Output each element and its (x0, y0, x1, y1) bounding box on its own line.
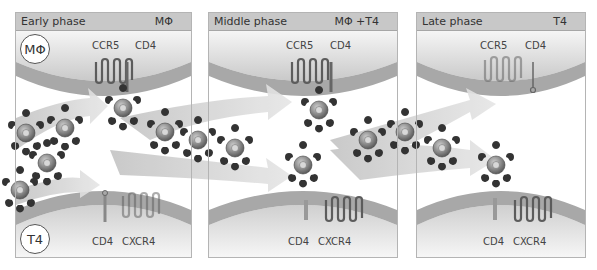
cd4-label: CD4 (525, 40, 546, 51)
phase-title: Middle phase (214, 13, 287, 30)
phase-title: Early phase (21, 13, 85, 30)
panel-header: Early phase MΦ (16, 13, 191, 31)
ccr5-label: CCR5 (286, 40, 313, 51)
macrophage-badge: MΦ (20, 34, 50, 64)
cd4-label: CD4 (330, 40, 351, 51)
cell-type-label: MΦ (155, 13, 173, 30)
cd4-label: CD4 (135, 40, 156, 51)
ccr5-label: CCR5 (92, 40, 119, 51)
ccr5-label: CCR5 (480, 40, 507, 51)
cd4-label: CD4 (483, 236, 504, 247)
cell-type-label: T4 (553, 13, 567, 30)
panel-header: Late phase T4 (417, 13, 585, 31)
cxcr4-label: CXCR4 (122, 236, 155, 247)
cxcr4-label: CXCR4 (318, 236, 351, 247)
cell-type-label: MΦ +T4 (334, 13, 379, 30)
cxcr4-label: CXCR4 (513, 236, 546, 247)
phase-title: Late phase (422, 13, 483, 30)
panel-header: Middle phase MΦ +T4 (209, 13, 397, 31)
cd4-label: CD4 (92, 236, 113, 247)
cd4-label: CD4 (288, 236, 309, 247)
t4-cell-badge: T4 (20, 224, 50, 254)
